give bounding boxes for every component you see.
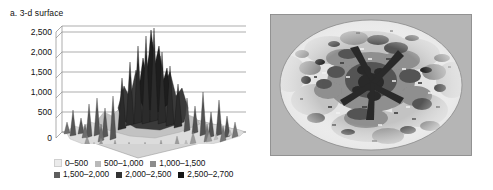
svg-text:2,500: 2,500 bbox=[31, 27, 53, 37]
surface-plot-area: 2,500 2,000 1,500 1,000 500 0 bbox=[0, 12, 250, 160]
legend-item: 500–1,000 bbox=[95, 158, 143, 169]
surface-chart-svg: 2,500 2,000 1,500 1,000 500 0 bbox=[0, 12, 250, 160]
svg-text:2,000: 2,000 bbox=[31, 47, 53, 57]
legend-row: 0–500 500–1,000 1,000–1,500 bbox=[54, 158, 250, 169]
legend-item: 1,500–2,000 bbox=[54, 169, 109, 180]
panel-3d-surface: a. 3-d surface bbox=[0, 0, 250, 190]
legend-swatch-icon bbox=[95, 161, 101, 167]
legend-item: 1,000–1,500 bbox=[150, 158, 205, 169]
svg-text:1,500: 1,500 bbox=[31, 67, 53, 77]
legend-item: 2,500–2,700 bbox=[178, 169, 233, 180]
panel-a-title: a. 3-d surface bbox=[8, 8, 65, 18]
legend-label: 0–500 bbox=[65, 158, 88, 169]
legend-swatch-icon bbox=[150, 161, 156, 167]
legend-swatch-icon bbox=[116, 172, 122, 178]
panel-contour: b. Contour bbox=[247, 0, 493, 190]
svg-text:500: 500 bbox=[38, 107, 52, 117]
legend-swatch-icon bbox=[178, 172, 184, 178]
svg-text:0: 0 bbox=[47, 133, 52, 143]
legend-item: 0–500 bbox=[54, 158, 88, 169]
surface-mesh bbox=[64, 28, 244, 158]
figure-container: a. 3-d surface bbox=[0, 0, 493, 190]
legend-swatch-icon bbox=[54, 159, 62, 167]
surface-axis-labels: 2,500 2,000 1,500 1,000 500 0 bbox=[31, 27, 53, 143]
svg-text:1,000: 1,000 bbox=[31, 87, 53, 97]
contour-plot-area bbox=[270, 14, 472, 156]
legend-item: 2,000–2,500 bbox=[116, 169, 171, 180]
legend-label: 2,000–2,500 bbox=[125, 169, 171, 180]
legend-row: 1,500–2,000 2,000–2,500 2,500–2,700 bbox=[54, 169, 250, 180]
legend-label: 1,500–2,000 bbox=[63, 169, 109, 180]
legend-label: 500–1,000 bbox=[104, 158, 143, 169]
legend-label: 1,000–1,500 bbox=[159, 158, 205, 169]
legend-swatch-icon bbox=[54, 172, 60, 178]
contour-chart-svg bbox=[270, 14, 472, 156]
legend-label: 2,500–2,700 bbox=[187, 169, 233, 180]
legend-panel-a: 0–500 500–1,000 1,000–1,500 1,500–2,000 … bbox=[54, 158, 250, 180]
